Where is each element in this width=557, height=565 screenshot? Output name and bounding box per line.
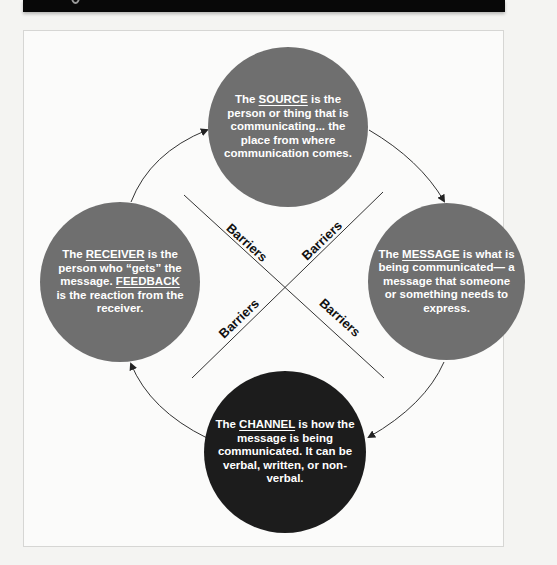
message-keyword: MESSAGE — [402, 248, 460, 260]
receiver-text-post: is the reaction from the receiver. — [56, 289, 183, 315]
arrow-message-to-channel — [369, 362, 444, 437]
channel-keyword: CHANNEL — [239, 418, 295, 430]
arrow-receiver-to-source — [131, 130, 207, 202]
channel-node: The CHANNEL is how the message is being … — [204, 371, 366, 533]
barrier-line-2 — [192, 192, 383, 378]
message-text-pre: The — [378, 248, 402, 260]
feedback-keyword: FEEDBACK — [116, 275, 180, 287]
receiver-text-pre: The — [62, 248, 86, 260]
source-text-pre: The — [235, 93, 259, 105]
message-node: The MESSAGE is what is being communicate… — [368, 203, 525, 360]
receiver-node: The RECEIVER is the person who “gets” th… — [40, 202, 200, 362]
source-node: The SOURCE is the person or thing that i… — [208, 47, 368, 207]
arrow-source-to-message — [369, 130, 444, 201]
source-keyword: SOURCE — [259, 93, 308, 105]
channel-text-pre: The — [215, 418, 239, 430]
receiver-keyword: RECEIVER — [86, 248, 145, 260]
barrier-line-1 — [184, 195, 384, 378]
